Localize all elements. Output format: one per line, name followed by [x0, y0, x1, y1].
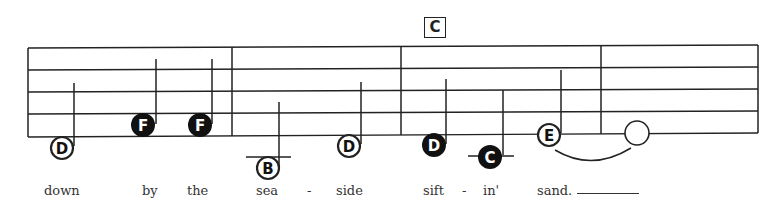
- svg-text:D: D: [428, 137, 440, 155]
- note-c-quarter: C: [468, 90, 514, 169]
- svg-text:F: F: [138, 117, 148, 135]
- lyric-hyphen: -: [307, 183, 311, 198]
- note-f-quarter: F: [131, 59, 156, 137]
- lyric-word: sand.: [537, 183, 572, 198]
- lyric-word: by: [142, 183, 158, 198]
- note-e-half: E: [538, 70, 561, 146]
- chord-symbol: C: [424, 17, 446, 38]
- svg-text:D: D: [56, 140, 68, 158]
- note-d-half: D: [51, 83, 74, 159]
- svg-text:D: D: [343, 138, 355, 156]
- svg-text:B: B: [262, 160, 273, 178]
- lyric-word: sift: [423, 183, 444, 198]
- tie-arc: [555, 148, 631, 161]
- music-staff: D F F B D D C E: [0, 0, 784, 205]
- lyric-word: in': [483, 183, 499, 198]
- lyric-word: side: [336, 183, 363, 198]
- note-d-half: D: [338, 82, 361, 157]
- lyric-word: down: [44, 183, 80, 198]
- svg-text:C: C: [484, 149, 495, 167]
- lyric-word: sea: [256, 183, 278, 198]
- svg-text:E: E: [544, 127, 554, 145]
- lyric-word: the: [187, 183, 208, 198]
- note-whole: [625, 121, 649, 145]
- lyric-extender-line: [577, 193, 639, 194]
- lyric-hyphen: -: [462, 183, 466, 198]
- note-f-quarter: F: [188, 59, 212, 137]
- svg-text:F: F: [195, 117, 205, 135]
